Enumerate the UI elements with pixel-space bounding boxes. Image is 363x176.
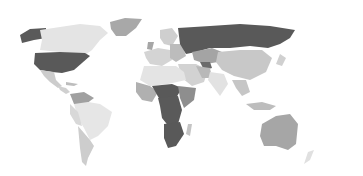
region-uk[interactable] (147, 42, 154, 50)
region-mexico[interactable] (40, 70, 62, 88)
region-colombia-venezuela[interactable] (70, 92, 94, 104)
region-southeast-asia[interactable] (232, 80, 250, 96)
region-new-zealand[interactable] (304, 150, 314, 164)
region-southern-africa[interactable] (164, 122, 184, 148)
region-caribbean[interactable] (66, 82, 78, 86)
region-central-america[interactable] (58, 86, 70, 94)
region-scandinavia[interactable] (160, 28, 178, 46)
region-greenland[interactable] (110, 18, 142, 36)
region-western-europe[interactable] (144, 48, 172, 66)
region-indonesia[interactable] (246, 102, 276, 110)
region-madagascar[interactable] (186, 124, 192, 136)
region-north-africa[interactable] (140, 66, 186, 86)
world-map (0, 0, 363, 176)
region-canada[interactable] (40, 24, 108, 55)
region-east-africa[interactable] (178, 86, 196, 108)
region-australia[interactable] (260, 114, 298, 150)
region-india[interactable] (208, 72, 228, 96)
region-usa[interactable] (34, 52, 90, 73)
region-japan[interactable] (276, 54, 286, 66)
region-russia[interactable] (178, 24, 295, 54)
